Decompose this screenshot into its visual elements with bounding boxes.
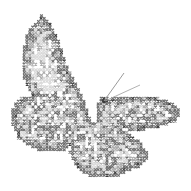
cross-stitch-pattern: [0, 0, 191, 191]
butterfly-artwork: Cross-stitch Butterfly Grayscale counted…: [0, 0, 191, 191]
